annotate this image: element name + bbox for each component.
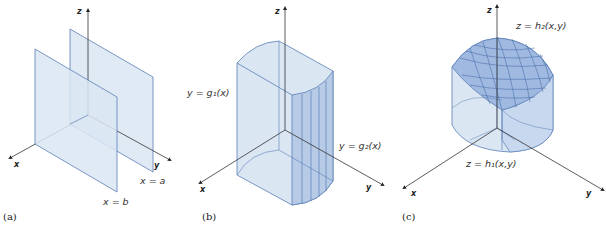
y-axis-label-b: y (366, 183, 372, 192)
panel-a: z x y x = a x = b (a) (3, 7, 170, 222)
panel-b: z x y y = g₁(x) y = g₂(x) (b) (186, 7, 383, 222)
x-axis-label-a: x (13, 160, 20, 169)
caption-a: (a) (3, 211, 17, 222)
z-axis-label-b: z (274, 7, 280, 16)
label-g2: y = g₂(x) (338, 140, 382, 151)
label-h1: z = h₁(x,y) (465, 158, 517, 169)
caption-c: (c) (402, 211, 416, 222)
y-axis-label-a: y (154, 161, 160, 170)
label-h2: z = h₂(x,y) (515, 20, 567, 31)
y-axis-label-c: y (586, 189, 592, 198)
label-g1: y = g₁(x) (186, 87, 230, 98)
label-x-equals-a: x = a (139, 175, 166, 186)
x-axis-label-b: x (199, 185, 206, 194)
z-axis-label-c: z (486, 6, 492, 15)
x-axis-label-c: x (410, 189, 417, 198)
label-x-equals-b: x = b (102, 196, 129, 207)
caption-b: (b) (202, 211, 216, 222)
panel-c: z x y z = h₂(x,y) z = h₁(x,y) (c) (402, 6, 603, 222)
figure: z x y x = a x = b (a) z x y y = g₁(x) y … (0, 0, 606, 227)
z-axis-label-a: z (76, 7, 82, 16)
